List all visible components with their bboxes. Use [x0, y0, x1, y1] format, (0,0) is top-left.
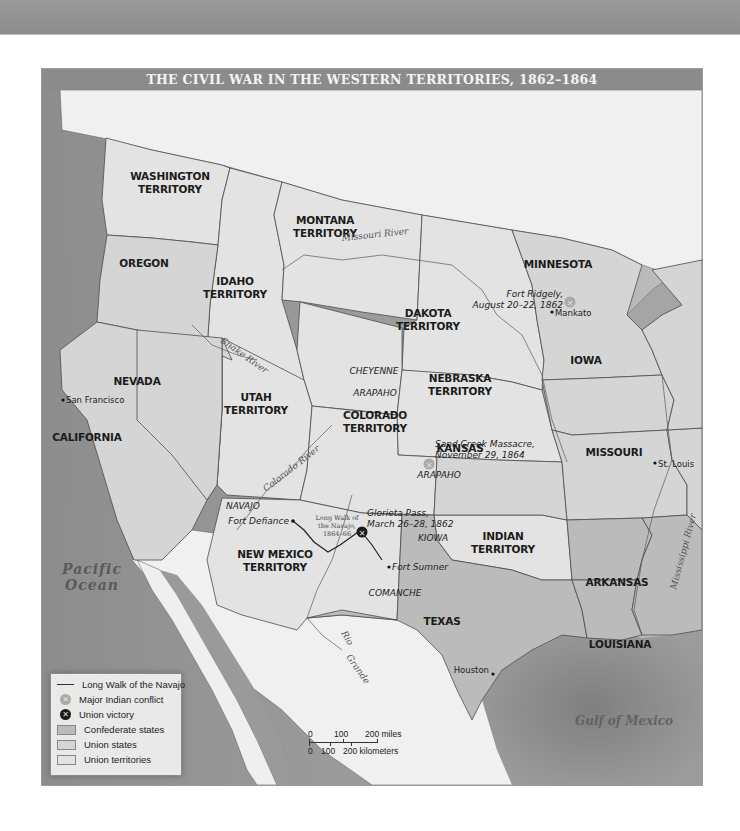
svg-text:✕: ✕: [567, 299, 574, 308]
city-dot-mankato: [550, 310, 553, 313]
event-fort-ridgely-2: August 20–22, 1862: [472, 300, 564, 310]
event-sand-creek-1: Sand Creek Massacre,: [435, 439, 535, 449]
scale-bar: 0 100 200 miles 0 100 200 kilometers: [304, 729, 434, 769]
label-new-mexico-2: TERRITORY: [243, 561, 307, 573]
svg-text:✕: ✕: [426, 461, 433, 470]
city-fort-sumner: Fort Sumner: [392, 562, 449, 572]
major-indian-conflict-fort-ridgely: ✕: [565, 297, 576, 308]
tribe-navajo: NAVAJO: [226, 501, 260, 511]
note-long-walk-2: the Navajo,: [318, 522, 356, 530]
scale-km-100: 100: [321, 746, 335, 756]
scale-miles-100: 100: [334, 729, 348, 739]
tribe-kiowa: KIOWA: [418, 533, 448, 543]
label-louisiana: LOUISIANA: [589, 638, 652, 650]
tribe-comanche: COMANCHE: [369, 588, 422, 598]
city-dot-fort-sumner: [387, 565, 390, 568]
label-dakota-2: TERRITORY: [396, 320, 460, 332]
city-fort-defiance: Fort Defiance: [228, 516, 289, 526]
scale-km-0: 0: [308, 746, 313, 756]
map-title: THE CIVIL WAR IN THE WESTERN TERRITORIES…: [146, 72, 597, 87]
label-idaho-1: IDAHO: [216, 275, 254, 287]
note-long-walk-1: Long Walk of: [315, 514, 359, 522]
major-indian-conflict-sand-creek: ✕: [424, 459, 435, 470]
legend-item-union-states: Union states: [57, 738, 137, 751]
label-oregon: OREGON: [119, 257, 168, 269]
legend-item-union-victory: ✕ Union victory: [57, 708, 134, 721]
tribe-arapaho-north: ARAPAHO: [352, 388, 397, 398]
label-missouri: MISSOURI: [586, 446, 643, 458]
label-utah-2: TERRITORY: [224, 404, 288, 416]
conflict-marker-icon: ✕: [60, 694, 71, 705]
union-victory-glorieta-pass: ✕: [357, 527, 368, 538]
label-nebraska-2: TERRITORY: [428, 385, 492, 397]
legend-item-indian-conflict: ✕ Major Indian conflict: [57, 693, 163, 706]
label-minnesota: MINNESOTA: [524, 258, 593, 270]
legend-line-swatch: [57, 684, 74, 685]
label-texas: TEXAS: [423, 615, 460, 627]
city-dot-st-louis: [653, 461, 656, 464]
label-indian-territory-2: TERRITORY: [471, 543, 535, 555]
victory-marker-icon: ✕: [60, 709, 71, 720]
region-kansas: [434, 457, 567, 520]
tribe-cheyenne: CHEYENNE: [349, 366, 398, 376]
label-california: CALIFORNIA: [52, 431, 123, 443]
event-sand-creek-2: November 29, 1864: [435, 450, 525, 460]
union-states-swatch: [57, 740, 76, 750]
label-nevada: NEVADA: [113, 375, 161, 387]
scale-km-200: 200 kilometers: [343, 746, 398, 756]
city-san-francisco: San Francisco: [66, 395, 124, 405]
tribe-arapaho-south: ARAPAHO: [416, 470, 461, 480]
city-dot-fort-defiance: [291, 519, 295, 523]
confederate-swatch: [57, 725, 76, 735]
label-utah-1: UTAH: [241, 391, 272, 403]
svg-text:✕: ✕: [359, 529, 366, 538]
legend-item-long-walk: Long Walk of the Navajo: [57, 678, 185, 691]
scale-miles-0: 0: [308, 729, 313, 739]
label-pacific-1: Pacific: [61, 561, 122, 577]
scale-miles-200: 200 miles: [365, 729, 401, 739]
label-iowa: IOWA: [570, 354, 602, 366]
page-header-banner: [0, 0, 740, 35]
label-montana-1: MONTANA: [296, 214, 355, 226]
label-indian-territory-1: INDIAN: [482, 530, 523, 542]
map-title-bar: THE CIVIL WAR IN THE WESTERN TERRITORIES…: [42, 69, 702, 90]
label-colorado-2: TERRITORY: [343, 422, 407, 434]
map-frame: THE CIVIL WAR IN THE WESTERN TERRITORIES…: [41, 68, 703, 786]
label-pacific-2: Ocean: [65, 577, 119, 593]
label-washington-1: WASHINGTON: [130, 170, 210, 182]
city-dot-san-francisco: [61, 398, 64, 401]
region-iowa: [542, 375, 674, 435]
map-legend: Long Walk of the Navajo ✕ Major Indian c…: [50, 673, 182, 776]
event-glorieta-2: March 26–28, 1862: [367, 519, 454, 529]
event-glorieta-1: Glorieta Pass,: [367, 508, 429, 518]
city-houston: Houston: [454, 665, 489, 675]
legend-item-union-territories: Union territories: [57, 753, 151, 766]
event-fort-ridgely-1: Fort Ridgely,: [507, 289, 563, 299]
note-long-walk-3: 1864–66: [323, 530, 351, 538]
label-arkansas: ARKANSAS: [586, 576, 649, 588]
label-new-mexico-1: NEW MEXICO: [237, 548, 313, 560]
city-dot-houston: [491, 672, 494, 675]
label-idaho-2: TERRITORY: [203, 288, 267, 300]
label-nebraska-1: NEBRASKA: [429, 372, 492, 384]
label-colorado-1: COLORADO: [343, 409, 407, 421]
label-gulf-of-mexico: Gulf of Mexico: [575, 714, 673, 728]
union-territories-swatch: [57, 755, 76, 765]
legend-item-confederate: Confederate states: [57, 723, 164, 736]
label-washington-2: TERRITORY: [138, 183, 202, 195]
label-dakota-1: DAKOTA: [405, 307, 453, 319]
city-st-louis: St. Louis: [658, 459, 695, 469]
